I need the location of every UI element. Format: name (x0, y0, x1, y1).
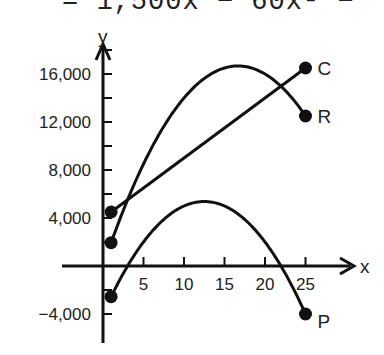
end-point-p (299, 308, 312, 321)
y-tick-label: −4,000 (39, 305, 91, 324)
x-tick-label: 10 (175, 275, 194, 294)
x-tick-label: 25 (296, 275, 315, 294)
y-tick-label: 4,000 (48, 209, 91, 228)
curve-c (111, 68, 305, 212)
y-tick-label: 16,000 (39, 65, 91, 84)
x-tick-label: 20 (256, 275, 275, 294)
end-point-c (299, 62, 312, 75)
x-tick-label: 5 (139, 275, 148, 294)
curve-p (111, 202, 305, 315)
y-axis-label: y (98, 26, 108, 47)
chart: 510152025−4,0004,0008,00012,00016,000 xy… (0, 0, 384, 355)
series-label-p: P (318, 311, 331, 332)
start-point-r (105, 236, 118, 249)
curves (105, 62, 312, 321)
x-tick-label: 15 (215, 275, 234, 294)
series-label-c: C (318, 58, 332, 79)
y-tick-label: 12,000 (39, 113, 91, 132)
start-point-p (105, 290, 118, 303)
start-point-c (105, 206, 118, 219)
series-label-r: R (318, 106, 332, 127)
x-axis-label: x (360, 256, 370, 277)
end-point-r (299, 110, 312, 123)
curve-r (111, 66, 305, 243)
y-tick-label: 8,000 (48, 161, 91, 180)
